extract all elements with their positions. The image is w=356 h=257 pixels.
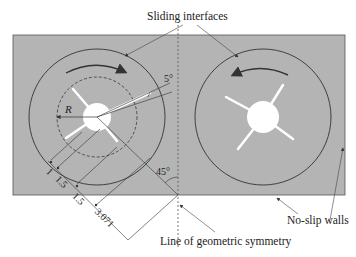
label-radius: R <box>65 104 72 115</box>
label-symmetry-line: Line of geometric symmetry <box>160 236 291 248</box>
label-angle-45: 45° <box>156 167 170 177</box>
fluid-domain <box>13 35 345 195</box>
label-angle-5: 5° <box>164 74 173 84</box>
label-no-slip-walls: No-slip walls <box>287 215 349 227</box>
right-hub <box>247 101 279 133</box>
label-sliding-interfaces: Sliding interfaces <box>147 11 228 23</box>
